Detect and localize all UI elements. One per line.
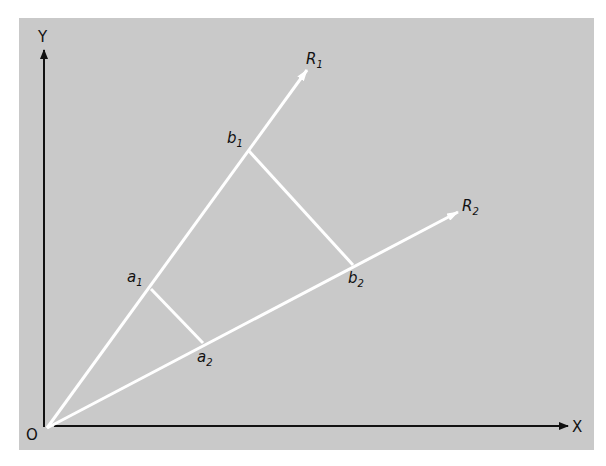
x-axis-label: X	[572, 418, 582, 436]
y-axis-label: Y	[37, 28, 48, 46]
diagram-canvas: Y X O R1 R2 a1 a2 b1 b2	[0, 0, 606, 466]
point-a2-label: a2	[197, 348, 213, 368]
point-b1-label: b1	[227, 129, 243, 149]
ray-r2-label: R2	[462, 197, 479, 217]
point-a1-label: a1	[127, 268, 143, 288]
origin-label: O	[26, 426, 38, 444]
ray-r2	[47, 212, 458, 428]
connector-b1-b2	[249, 151, 353, 265]
point-b2-label: b2	[348, 269, 364, 289]
connector-a1-a2	[151, 289, 203, 343]
ray-r1-label: R1	[306, 50, 323, 70]
ray-r1	[47, 70, 307, 428]
